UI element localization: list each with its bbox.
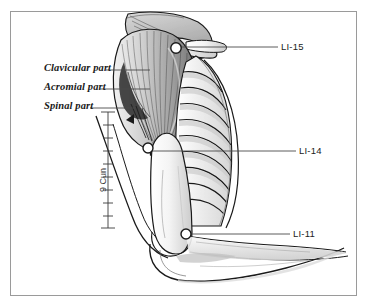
anatomy-figure: Clavicular part Acromial part Spinal par… bbox=[0, 0, 372, 308]
label-acupoint-li11: LI-11 bbox=[293, 228, 315, 239]
label-acromial-part: Acromial part bbox=[44, 81, 106, 92]
label-cun-scale: 9 Cun bbox=[98, 168, 108, 192]
acupoint-marker-li11 bbox=[181, 229, 191, 239]
acupoint-marker-li14 bbox=[143, 143, 153, 153]
label-acupoint-li14: LI-14 bbox=[299, 145, 322, 156]
acupoint-marker-li15 bbox=[171, 43, 181, 53]
label-spinal-part: Spinal part bbox=[44, 100, 93, 111]
label-acupoint-li15: LI-15 bbox=[281, 41, 304, 52]
clavicle-bone bbox=[186, 40, 226, 52]
label-clavicular-part: Clavicular part bbox=[44, 62, 111, 73]
